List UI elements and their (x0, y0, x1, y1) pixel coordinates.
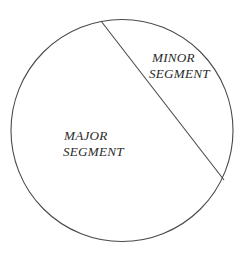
diagram-canvas (0, 0, 250, 261)
minor-segment-label-line-1: MINOR (152, 50, 210, 66)
major-segment-label: MAJOR SEGMENT (64, 128, 124, 159)
major-segment-label-line-2: SEGMENT (63, 144, 124, 160)
major-segment-label-line-1: MAJOR (64, 128, 124, 144)
minor-segment-label-line-2: SEGMENT (149, 66, 210, 82)
minor-segment-label: MINOR SEGMENT (152, 50, 210, 81)
circle-segment-diagram: MINOR SEGMENT MAJOR SEGMENT (0, 0, 250, 261)
diagram-background (0, 0, 250, 261)
